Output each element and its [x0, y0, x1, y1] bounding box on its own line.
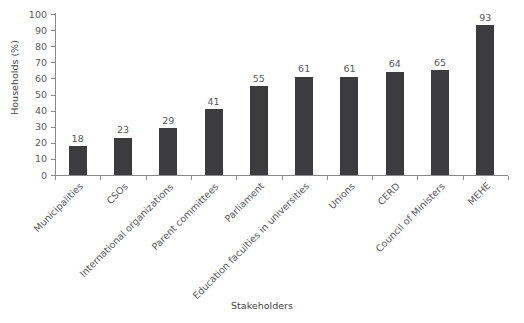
x-axis-category-label: Parliament: [223, 181, 266, 224]
y-axis-tick-label: 100: [29, 10, 47, 20]
x-axis-title: Stakeholders: [0, 300, 524, 311]
bar[interactable]: 61: [340, 77, 358, 175]
bar[interactable]: 61: [295, 77, 313, 175]
x-axis-tick: [100, 176, 101, 180]
y-axis-tick: 90: [51, 30, 55, 31]
bar-value-label: 65: [434, 58, 446, 68]
bar[interactable]: 23: [114, 138, 132, 175]
plot-area: 0102030405060708090100 18232941556161646…: [55, 14, 508, 175]
bar[interactable]: 18: [69, 146, 87, 175]
bar-value-label: 41: [208, 97, 220, 107]
x-axis-tick: [508, 176, 509, 180]
bar[interactable]: 64: [386, 72, 404, 175]
bar-value-label: 23: [117, 125, 129, 135]
y-axis-tick: 40: [51, 111, 55, 112]
bar-value-label: 18: [72, 134, 84, 144]
y-axis-tick: 20: [51, 143, 55, 144]
x-axis-tick: [191, 176, 192, 180]
x-axis-category-label: Unions: [327, 181, 357, 211]
bar-value-label: 61: [298, 64, 310, 74]
bar-value-label: 55: [253, 74, 265, 84]
bar-value-label: 61: [343, 64, 355, 74]
bar-value-label: 64: [389, 59, 401, 69]
y-axis-tick-label: 30: [35, 122, 47, 132]
x-axis-tick: [146, 176, 147, 180]
bar[interactable]: 55: [250, 86, 268, 175]
x-axis-category-label: CSOs: [105, 181, 129, 205]
y-axis-tick-label: 10: [35, 155, 47, 165]
y-axis-tick: 50: [51, 95, 55, 96]
y-axis-tick-label: 40: [35, 106, 47, 116]
y-axis-tick-label: 50: [35, 90, 47, 100]
bar[interactable]: 29: [159, 128, 177, 175]
y-axis-tick-label: 20: [35, 139, 47, 149]
x-axis-category-label: Municipalities: [32, 181, 85, 234]
x-axis-category-label: International organizations: [78, 181, 175, 278]
bar-chart-figure: 0102030405060708090100 18232941556161646…: [0, 0, 524, 323]
y-axis-tick-label: 0: [41, 171, 47, 181]
x-axis-category-label: MEHE: [466, 181, 492, 207]
bar[interactable]: 65: [431, 70, 449, 175]
x-axis-tick: [236, 176, 237, 180]
bar[interactable]: 41: [205, 109, 223, 175]
x-axis-tick: [282, 176, 283, 180]
y-axis-tick-label: 70: [35, 58, 47, 68]
x-axis-tick: [327, 176, 328, 180]
y-axis-tick-label: 80: [35, 42, 47, 52]
bar[interactable]: 93: [476, 25, 494, 175]
y-axis-title: Households (%): [9, 18, 20, 138]
y-axis-tick: 80: [51, 46, 55, 47]
x-axis-category-label: CERD: [376, 181, 402, 207]
y-axis-tick: 100: [51, 14, 55, 15]
y-axis-tick: 70: [51, 62, 55, 63]
y-axis-tick-label: 90: [35, 26, 47, 36]
x-axis-tick: [463, 176, 464, 180]
x-axis-tick: [372, 176, 373, 180]
y-axis-tick: 10: [51, 159, 55, 160]
bar-value-label: 93: [479, 13, 491, 23]
x-axis-tick: [55, 176, 56, 180]
y-axis-tick: 30: [51, 127, 55, 128]
x-axis-tick: [417, 176, 418, 180]
bar-value-label: 29: [162, 116, 174, 126]
y-axis-tick-label: 60: [35, 74, 47, 84]
y-axis-tick: 60: [51, 78, 55, 79]
